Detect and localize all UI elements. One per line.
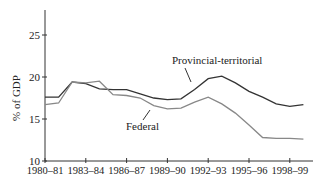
x-tick-label: 1986–87 [108,165,145,176]
label-provincial-territorial: Provincial-territorial [172,54,262,66]
y-tick-label: 25 [29,29,41,41]
series-line-provincial-territorial [45,76,303,106]
annotations: Provincial-territorialFederal [126,54,262,132]
y-axis-label: % of GDP [10,75,22,121]
series-line-federal [45,81,303,139]
line-chart: 101520251980–811983–841986–871989–901992… [0,0,328,187]
x-tick-label: 1980–81 [27,165,64,176]
label-federal: Federal [126,120,159,132]
axes: 101520251980–811983–841986–871989–901992… [27,10,313,176]
y-tick-label: 15 [29,113,41,125]
x-tick-label: 1989–90 [149,165,186,176]
y-tick-label: 20 [29,71,41,83]
x-tick-label: 1995–96 [231,165,268,176]
x-tick-label: 1998–99 [271,165,308,176]
x-tick-label: 1992–93 [190,165,227,176]
arrow-provincial [185,68,191,82]
x-tick-label: 1983–84 [67,165,105,176]
data-lines [45,76,303,139]
arrow-federal [143,110,150,120]
